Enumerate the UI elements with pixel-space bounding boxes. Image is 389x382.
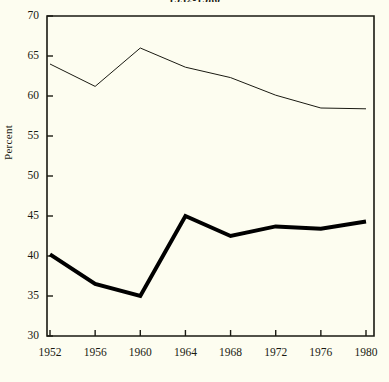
chart-figure: 1952-1980 Percent 303540455055606570 195… bbox=[0, 0, 389, 382]
plot-frame bbox=[47, 16, 374, 336]
axes-frame bbox=[47, 16, 374, 336]
series-line-lower-thick-line bbox=[50, 216, 366, 296]
plot-area bbox=[0, 0, 389, 382]
axis-ticks bbox=[47, 16, 366, 336]
series-line-upper-thin-line bbox=[50, 48, 366, 109]
data-series bbox=[50, 48, 366, 296]
